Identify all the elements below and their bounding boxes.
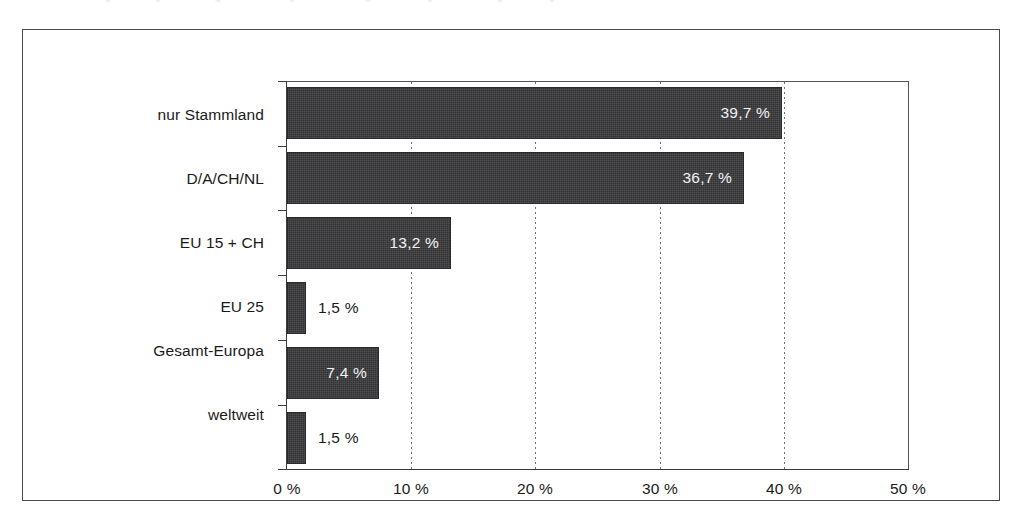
plot-area: 39,7 % 36,7 % 13,2 % 1,5 % 7,4 % [286,81,909,470]
bar-row-2: 13,2 % [287,217,910,269]
x-axis-line [286,469,909,470]
bar-row-1: 36,7 % [287,152,910,204]
x-tick-label-5: 50 % [890,480,926,498]
scan-artifact [100,0,570,4]
y-tick-2 [278,210,286,211]
bar-nur-stammland[interactable]: 39,7 % [287,87,782,139]
x-tick-label-4: 40 % [766,480,802,498]
x-tick-label-1: 10 % [393,480,429,498]
category-label-2: EU 15 + CH [39,234,264,252]
category-label-3: EU 25 [39,298,264,316]
plot-top-rule [286,81,909,82]
y-tick-6 [278,469,286,470]
bar-gesamt-europa[interactable]: 7,4 % [287,347,379,399]
bar-value-5: 1,5 % [318,429,359,447]
category-label-4: Gesamt-Europa [39,342,264,360]
y-tick-4 [278,340,286,341]
bar-row-3: 1,5 % [287,282,910,334]
bar-value-1: 36,7 % [683,169,732,187]
y-tick-5 [278,405,286,406]
bar-value-4: 7,4 % [326,364,367,382]
y-tick-0 [278,81,286,82]
bar-row-4: 7,4 % [287,347,910,399]
bar-row-0: 39,7 % [287,87,910,139]
x-tick-label-0: 0 % [273,480,300,498]
y-tick-3 [278,275,286,276]
bar-eu-15-ch[interactable]: 13,2 % [287,217,451,269]
bar-row-5: 1,5 % [287,412,910,464]
bar-d-a-ch-nl[interactable]: 36,7 % [287,152,744,204]
bar-value-3: 1,5 % [318,299,359,317]
bar-weltweit[interactable] [287,412,306,464]
x-tick-label-2: 20 % [517,480,553,498]
category-label-1: D/A/CH/NL [39,170,264,188]
y-tick-1 [278,146,286,147]
chart-frame: nur Stammland D/A/CH/NL EU 15 + CH EU 25… [22,29,1000,501]
figure: nur Stammland D/A/CH/NL EU 15 + CH EU 25… [0,0,1022,513]
category-label-0: nur Stammland [39,106,264,124]
x-tick-label-3: 30 % [642,480,678,498]
bar-eu-25[interactable] [287,282,306,334]
bar-value-2: 13,2 % [390,234,439,252]
category-label-5: weltweit [39,406,264,424]
bar-value-0: 39,7 % [721,104,770,122]
